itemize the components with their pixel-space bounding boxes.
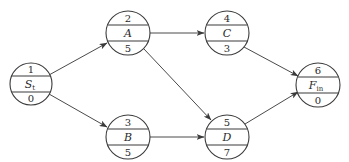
node-s-top: 1: [28, 64, 34, 75]
node-d: 5 D 7: [205, 115, 249, 159]
edge-d-to-f: [245, 92, 298, 124]
node-c: 4 C 3: [205, 11, 249, 55]
edge-c-to-f: [244, 47, 298, 76]
node-c-top: 4: [224, 13, 230, 24]
node-a: 2 A 5: [106, 11, 150, 55]
edges: [49, 33, 298, 137]
node-a-label: A: [123, 27, 132, 40]
edge-s-to-a: [49, 43, 107, 75]
node-c-label: C: [223, 27, 232, 40]
network-diagram: 1 St 0 2 A 5 3 B 5 4 C 3 5 D 7: [0, 0, 349, 162]
node-f-bottom: 0: [315, 95, 321, 106]
node-f-top: 6: [315, 65, 321, 76]
node-b: 3 B 5: [106, 115, 150, 159]
node-c-bottom: 3: [224, 43, 230, 54]
node-a-bottom: 5: [125, 43, 131, 54]
node-d-label: D: [222, 131, 232, 144]
node-s-bottom: 0: [28, 93, 34, 104]
node-b-top: 3: [125, 117, 131, 128]
node-d-bottom: 7: [224, 147, 230, 158]
node-f: 6 Fin 0: [296, 63, 340, 107]
edge-s-to-b: [49, 94, 107, 127]
node-d-top: 5: [224, 117, 230, 128]
edge-a-to-d: [144, 49, 211, 120]
node-a-top: 2: [125, 13, 131, 24]
node-s: 1 St 0: [10, 63, 52, 105]
node-b-label: B: [123, 131, 132, 144]
node-b-bottom: 5: [125, 147, 131, 158]
